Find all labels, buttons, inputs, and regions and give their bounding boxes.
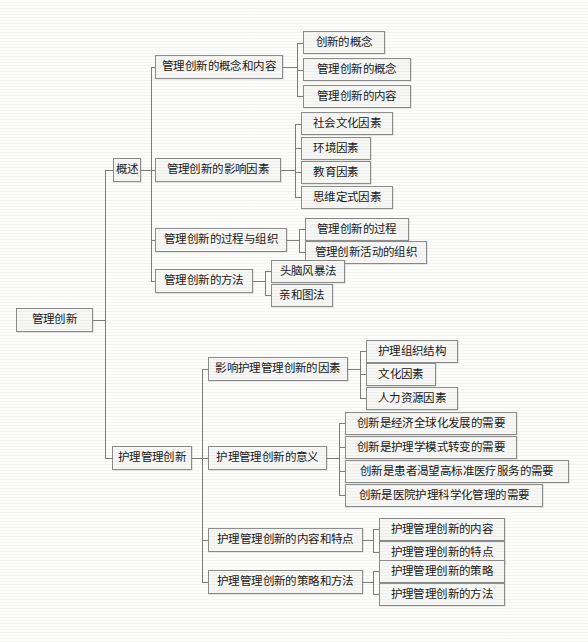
node-overview[interactable]: 概述 [113, 158, 141, 182]
node-leaf-nursing-innovation-strategy[interactable]: 护理管理创新的策略 [379, 560, 505, 583]
node-leaf-nursing-innovation-methods[interactable]: 护理管理创新的方法 [379, 583, 505, 606]
connector-strategy-stub [363, 582, 373, 583]
node-nursing-innovation-content-and-features[interactable]: 护理管理创新的内容和特点 [208, 528, 363, 552]
node-nursing-influencing-factors[interactable]: 影响护理管理创新的因素 [208, 357, 348, 381]
node-leaf-content-of-management-innovation[interactable]: 管理创新的内容 [303, 85, 411, 108]
node-leaf-social-cultural-factors[interactable]: 社会文化因素 [301, 112, 393, 135]
node-leaf-concept-of-innovation[interactable]: 创新的概念 [303, 31, 385, 54]
node-leaf-need-of-scientific-hospital-management[interactable]: 创新是医院护理科学化管理的需要 [345, 484, 543, 507]
node-leaf-nursing-innovation-content[interactable]: 护理管理创新的内容 [379, 518, 505, 541]
connector-strategy-spine [373, 571, 374, 594]
connector-root-stub [93, 320, 105, 321]
connector-process-stub [287, 240, 299, 241]
node-leaf-concept-of-management-innovation[interactable]: 管理创新的概念 [303, 58, 411, 81]
node-nursing-innovation-significance[interactable]: 护理管理创新的意义 [208, 446, 327, 470]
connector-nursing-stub [192, 458, 202, 459]
connector-methods-stub [253, 281, 265, 282]
node-leaf-nursing-organization-structure[interactable]: 护理组织结构 [366, 340, 458, 363]
node-leaf-need-of-nursing-model-change[interactable]: 创新是护理学模式转变的需要 [345, 436, 517, 459]
node-leaf-mindset-factors[interactable]: 思维定式因素 [301, 186, 393, 209]
node-root-management-innovation[interactable]: 管理创新 [16, 308, 93, 332]
connector-factors-stub [281, 170, 295, 171]
mindmap-canvas: 管理创新 概述 护理管理创新 管理创新的概念和内容 管理创新的影响因素 管理创新… [0, 0, 588, 642]
connector-methods-spine [265, 271, 266, 295]
node-innovation-concept-and-content[interactable]: 管理创新的概念和内容 [155, 55, 283, 79]
node-innovation-methods[interactable]: 管理创新的方法 [155, 269, 253, 293]
connector-meaning-stub [327, 458, 339, 459]
node-leaf-affinity-diagram[interactable]: 亲和图法 [271, 284, 333, 307]
connector-content-stub [363, 540, 373, 541]
connector-overview-stub [141, 170, 151, 171]
node-leaf-brainstorming[interactable]: 头脑风暴法 [271, 260, 345, 283]
node-leaf-education-factors[interactable]: 教育因素 [301, 161, 371, 184]
node-innovation-process-and-organization[interactable]: 管理创新的过程与组织 [155, 228, 287, 252]
connector-concept-stub [283, 67, 297, 68]
node-innovation-influencing-factors[interactable]: 管理创新的影响因素 [155, 158, 281, 182]
connector-meaning-spine [339, 423, 340, 495]
connector-process-spine [299, 229, 300, 252]
connector-root-spine [105, 170, 106, 458]
connector-nursing-spine [202, 369, 203, 582]
node-nursing-management-innovation[interactable]: 护理管理创新 [112, 446, 192, 470]
node-leaf-environmental-factors[interactable]: 环境因素 [301, 137, 371, 160]
node-leaf-need-of-high-standard-medical-service[interactable]: 创新是患者渴望高标准医疗服务的需要 [345, 460, 569, 483]
node-nursing-innovation-strategy-and-methods[interactable]: 护理管理创新的策略和方法 [208, 570, 363, 594]
connector-root-to-overview [105, 170, 113, 171]
connector-content-spine [373, 529, 374, 552]
node-leaf-cultural-factors[interactable]: 文化因素 [366, 363, 436, 386]
connector-nfactors-stub [348, 369, 360, 370]
connector-factors-spine [295, 124, 296, 197]
node-leaf-need-of-economic-globalization[interactable]: 创新是经济全球化发展的需要 [345, 412, 517, 435]
node-leaf-human-resource-factors[interactable]: 人力资源因素 [366, 387, 458, 410]
node-leaf-process-of-management-innovation[interactable]: 管理创新的过程 [305, 218, 409, 241]
connector-overview-spine [151, 67, 152, 281]
